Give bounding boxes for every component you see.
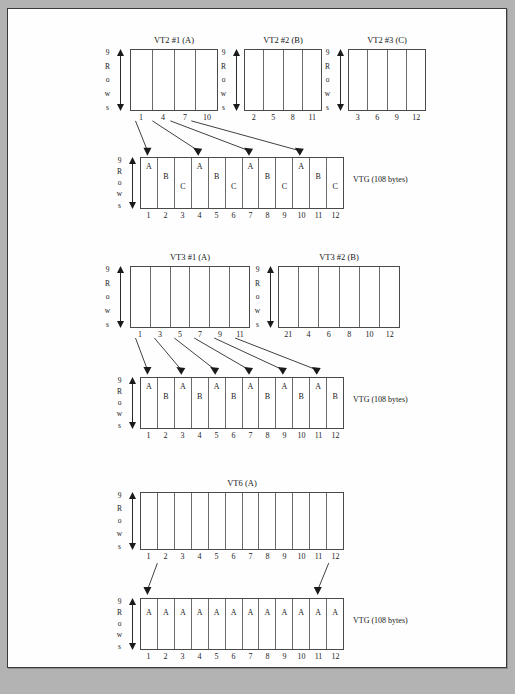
vtg-cell: A <box>192 599 209 649</box>
source-cell <box>293 493 310 549</box>
source-box-numbers: 21 4 6 8 10 12 <box>278 328 400 342</box>
column-number: 10 <box>293 209 310 223</box>
column-number: 11 <box>310 550 327 564</box>
vtg-cell-letter: A <box>276 608 292 617</box>
row-caption-vt2-3: 9 R o w s <box>321 49 347 111</box>
row-caption-char: o <box>326 76 330 84</box>
column-number: 2 <box>157 550 174 564</box>
vtg-cell-letter: A <box>158 608 174 617</box>
row-caption-char: s <box>106 104 109 112</box>
vtg-cell: C <box>226 158 243 208</box>
row-caption-char: s <box>326 104 329 112</box>
source-cell <box>259 493 276 549</box>
vtg-caption-3: VTG (108 bytes) <box>353 616 408 625</box>
source-cell <box>171 267 191 327</box>
vtg-cell: B <box>293 378 310 428</box>
column-number: 10 <box>293 550 310 564</box>
column-number: 6 <box>368 111 388 125</box>
source-box-title: VT3 #1 (A) <box>130 252 250 262</box>
column-number: 9 <box>276 550 293 564</box>
column-number: 9 <box>276 429 293 443</box>
source-cell <box>310 493 327 549</box>
column-number: 11 <box>310 429 327 443</box>
row-caption-vt6: 9 R o w s <box>113 492 139 550</box>
source-box-numbers: 1 3 5 7 9 11 <box>130 328 250 342</box>
column-number: 10 <box>293 650 310 664</box>
column-number: 1 <box>140 650 157 664</box>
row-caption-vtg-2: 9 R o w s <box>113 377 139 429</box>
row-caption-char: R <box>325 63 330 71</box>
double-headed-arrow-icon <box>116 266 125 328</box>
column-number: 11 <box>310 209 327 223</box>
column-number: 5 <box>264 111 284 125</box>
column-number: 4 <box>191 550 208 564</box>
row-caption-char: o <box>256 293 260 301</box>
vtg-cell: A <box>310 599 327 649</box>
source-cell <box>158 493 175 549</box>
source-box-cells <box>244 49 322 111</box>
vtg-cell-letter: A <box>141 608 157 617</box>
vtg-cell-letter: A <box>259 608 275 617</box>
vtg-cell-letter: B <box>209 172 225 181</box>
source-box-cells <box>348 49 426 111</box>
row-caption-char: R <box>255 280 260 288</box>
column-number: 12 <box>327 429 344 443</box>
column-number: 4 <box>191 209 208 223</box>
vtg-cell: A <box>141 158 158 208</box>
source-box-title: VT2 #1 (A) <box>130 35 218 45</box>
column-number: 8 <box>259 650 276 664</box>
vtg-cell: A <box>259 599 276 649</box>
vtg-cell: B <box>327 378 343 428</box>
vtg-cell: A <box>310 378 327 428</box>
vtg-box-cells: A B C A B C A B C A B C <box>140 157 344 209</box>
double-headed-arrow-icon <box>128 492 137 550</box>
source-cell <box>230 267 249 327</box>
column-number: 10 <box>293 429 310 443</box>
source-cell <box>131 267 151 327</box>
vtg-cell: B <box>192 378 209 428</box>
row-caption-char: o <box>222 76 226 84</box>
column-number: 6 <box>225 650 242 664</box>
source-cell <box>209 493 226 549</box>
vtg-cell-letter: A <box>226 608 242 617</box>
column-number: 5 <box>170 328 190 342</box>
vtg-cell: A <box>192 158 209 208</box>
vtg-cell-letter: C <box>276 182 292 191</box>
row-caption-vtg-1: 9 R o w s <box>113 157 139 209</box>
double-headed-arrow-icon <box>128 157 137 209</box>
source-cell <box>175 50 197 110</box>
vtg-box-cells: A A A A A A A A A A A A <box>140 598 344 650</box>
column-number: 12 <box>407 111 427 125</box>
vtg-cell-letter: A <box>293 608 309 617</box>
column-number: 9 <box>387 111 407 125</box>
vtg-cell: A <box>293 599 310 649</box>
vtg-cell-letter: A <box>209 382 225 391</box>
vtg-cell-letter: B <box>158 172 174 181</box>
column-number: 3 <box>174 209 191 223</box>
vtg-cell-letter: A <box>310 382 326 391</box>
column-number: 4 <box>298 328 318 342</box>
row-caption-char: s <box>118 543 121 551</box>
vtg-cell-letter: A <box>327 608 343 617</box>
column-number: 10 <box>196 111 218 125</box>
row-caption-char: o <box>106 293 110 301</box>
vtg-cell-letter: B <box>259 392 275 401</box>
column-number: 4 <box>191 429 208 443</box>
vtg-cell: B <box>209 158 226 208</box>
source-cell <box>303 50 321 110</box>
vtg-cell-letter: A <box>243 608 259 617</box>
vtg-box-numbers: 1 2 3 4 5 6 7 8 9 10 11 12 <box>140 650 344 664</box>
column-number: 8 <box>283 111 303 125</box>
vtg-box-numbers: 1 2 3 4 5 6 7 8 9 10 11 12 <box>140 429 344 443</box>
column-number: 1 <box>140 429 157 443</box>
source-box-vt3-1: VT3 #1 (A) 1 3 5 7 9 11 <box>130 266 250 328</box>
row-caption-char: s <box>118 422 121 430</box>
column-number: 3 <box>174 650 191 664</box>
column-number: 10 <box>359 328 379 342</box>
column-number: 6 <box>225 429 242 443</box>
row-caption-char: w <box>105 307 110 315</box>
source-cell <box>210 267 230 327</box>
column-number: 5 <box>208 209 225 223</box>
column-number: 7 <box>242 650 259 664</box>
double-headed-arrow-icon <box>116 49 125 111</box>
